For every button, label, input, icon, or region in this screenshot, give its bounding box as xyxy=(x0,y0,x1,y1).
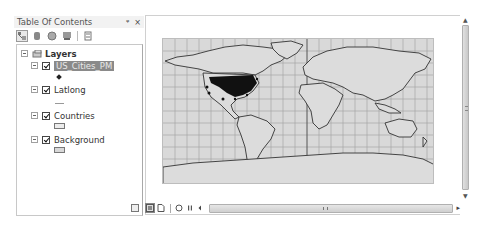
toc-tree: Layers US_Cities_PM Latlong Countries xyxy=(16,44,143,216)
layer-row-us-cities[interactable]: US_Cities_PM xyxy=(31,60,114,71)
line-symbol-icon xyxy=(55,103,64,104)
list-by-visibility-button[interactable] xyxy=(46,30,58,42)
scroll-right-icon[interactable]: ▸ xyxy=(457,204,461,212)
layer-row-countries[interactable]: Countries xyxy=(31,110,95,121)
layers-icon xyxy=(32,50,42,58)
world-map[interactable] xyxy=(162,38,434,184)
arcmap-window: Table Of Contents ᵠ × xyxy=(0,0,490,230)
layer-label[interactable]: Latlong xyxy=(54,85,86,95)
layer-visibility-checkbox[interactable] xyxy=(42,136,50,144)
scroll-grip-icon xyxy=(323,207,328,210)
horizontal-scrollbar[interactable] xyxy=(209,204,452,213)
layer-label[interactable]: Background xyxy=(54,135,105,145)
scroll-left-icon xyxy=(196,204,204,212)
collapse-icon[interactable] xyxy=(31,62,38,69)
pin-icon[interactable]: ᵠ xyxy=(126,18,129,27)
list-by-selection-button[interactable] xyxy=(61,30,73,42)
map-display[interactable] xyxy=(145,15,460,215)
collapse-icon[interactable] xyxy=(31,112,38,119)
drawing-order-icon xyxy=(17,31,27,41)
polygon-symbol-icon xyxy=(54,123,65,129)
collapse-icon[interactable] xyxy=(31,136,38,143)
close-icon[interactable]: × xyxy=(134,18,141,27)
toc-options-button[interactable] xyxy=(82,30,94,42)
point-symbol-icon xyxy=(56,74,62,80)
layer-label[interactable]: Countries xyxy=(54,111,95,121)
toc-title-bar: Table Of Contents ᵠ × xyxy=(14,16,144,28)
vertical-scrollbar[interactable]: ▲ ▼ xyxy=(461,15,470,200)
layer-visibility-checkbox[interactable] xyxy=(42,112,50,120)
layout-view-button[interactable] xyxy=(156,203,166,213)
layer-visibility-checkbox[interactable] xyxy=(42,62,50,70)
refresh-button[interactable] xyxy=(174,203,184,213)
collapse-icon[interactable] xyxy=(21,50,28,57)
pause-drawing-button[interactable] xyxy=(185,203,195,213)
bottom-bar-separator xyxy=(170,204,171,213)
scroll-grip-icon xyxy=(465,106,468,111)
data-view-icon xyxy=(146,204,154,212)
refresh-icon xyxy=(175,204,183,212)
layer-row-latlong[interactable]: Latlong xyxy=(31,84,86,95)
tree-node-layers[interactable]: Layers xyxy=(21,48,76,59)
vertical-scroll-thumb[interactable] xyxy=(462,25,469,190)
toolbar-separator xyxy=(77,31,78,41)
data-view-button[interactable] xyxy=(145,203,155,213)
selection-icon xyxy=(62,31,72,41)
toc-corner-button[interactable] xyxy=(131,204,139,212)
table-of-contents-panel: Table Of Contents ᵠ × xyxy=(14,16,144,216)
pause-icon xyxy=(186,204,194,212)
list-by-drawing-order-button[interactable] xyxy=(16,30,28,42)
list-by-source-button[interactable] xyxy=(31,30,43,42)
layers-label: Layers xyxy=(45,49,76,59)
scroll-left-button[interactable] xyxy=(195,203,205,213)
layer-label[interactable]: US_Cities_PM xyxy=(54,61,114,71)
countries-layer xyxy=(163,41,434,184)
layout-view-icon xyxy=(157,204,165,212)
world-map-graphic xyxy=(163,39,434,184)
collapse-icon[interactable] xyxy=(31,86,38,93)
layer-row-background[interactable]: Background xyxy=(31,134,105,145)
database-icon xyxy=(32,31,42,41)
toc-title: Table Of Contents xyxy=(17,17,92,27)
scroll-up-icon[interactable]: ▲ xyxy=(463,16,468,23)
options-icon xyxy=(83,31,93,41)
toc-toolbar xyxy=(16,29,94,43)
polygon-symbol-icon xyxy=(54,147,65,153)
map-bottom-bar: ▸ xyxy=(145,202,460,214)
visibility-icon xyxy=(47,31,57,41)
scroll-down-icon[interactable]: ▼ xyxy=(463,192,468,199)
layer-visibility-checkbox[interactable] xyxy=(42,86,50,94)
